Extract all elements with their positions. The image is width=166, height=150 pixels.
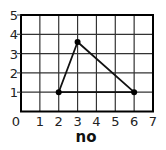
x-tick-label: 7 <box>149 114 157 129</box>
data-point-marker <box>56 89 62 95</box>
y-tick-label: 1 <box>10 85 18 100</box>
x-tick-label: 2 <box>55 114 63 129</box>
y-axis-tick-labels: 12345 <box>10 8 18 100</box>
x-tick-label: 4 <box>92 114 100 129</box>
x-tick-label: 0 <box>12 114 20 129</box>
x-axis-tick-labels: 01234567 <box>12 114 157 129</box>
data-point-marker <box>131 89 137 95</box>
x-tick-label: 1 <box>36 114 44 129</box>
plot-frame <box>21 15 153 112</box>
y-tick-label: 4 <box>10 27 18 42</box>
x-tick-label: 5 <box>111 114 119 129</box>
data-point-marker <box>75 39 81 45</box>
y-tick-label: 3 <box>10 47 18 62</box>
x-tick-label: 6 <box>130 114 138 129</box>
y-tick-label: 2 <box>10 66 18 81</box>
grid-lines <box>21 15 153 112</box>
chart: 01234567 12345 no <box>0 0 166 150</box>
y-tick-label: 5 <box>10 8 18 23</box>
x-axis-title: no <box>76 128 97 146</box>
x-tick-label: 3 <box>73 114 81 129</box>
